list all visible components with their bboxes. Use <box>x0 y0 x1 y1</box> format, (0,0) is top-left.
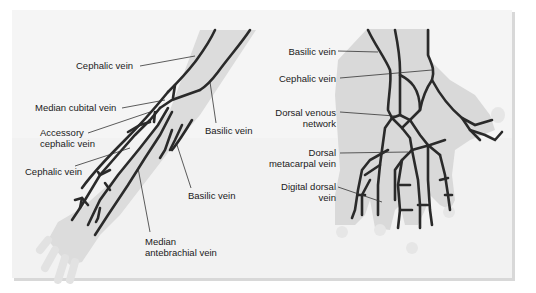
label-digital-dorsal-vein-line2: vein <box>319 192 336 203</box>
hand-diagram <box>335 29 505 254</box>
label-accessory-cephalic-vein-line2: cephalic vein <box>40 138 95 149</box>
label-cephalic-vein-lower: Cephalic vein <box>25 166 82 177</box>
label-cephalic-vein-hand: Cephalic vein <box>279 73 336 84</box>
label-digital-dorsal-vein-line1: Digital dorsal <box>281 181 336 192</box>
label-basilic-vein-hand: Basilic vein <box>288 46 336 57</box>
label-dorsal-metacarpal-vein-line1: Dorsal <box>309 147 336 158</box>
label-basilic-vein-lower: Basilic vein <box>188 190 236 201</box>
label-dorsal-metacarpal-vein-line2: metacarpal vein <box>269 158 336 169</box>
label-median-antebrachial-vein-line2: antebrachial vein <box>145 247 217 258</box>
label-basilic-vein-upper: Basilic vein <box>205 125 253 136</box>
label-median-antebrachial-vein-line1: Median <box>145 236 176 247</box>
label-accessory-cephalic-vein-line1: Accessory <box>40 127 84 138</box>
label-dorsal-venous-network-line2: network <box>303 118 336 129</box>
label-median-cubital-vein: Median cubital vein <box>35 102 116 113</box>
label-dorsal-venous-network-line1: Dorsal venous <box>275 107 336 118</box>
label-cephalic-vein-upper: Cephalic vein <box>76 60 133 71</box>
